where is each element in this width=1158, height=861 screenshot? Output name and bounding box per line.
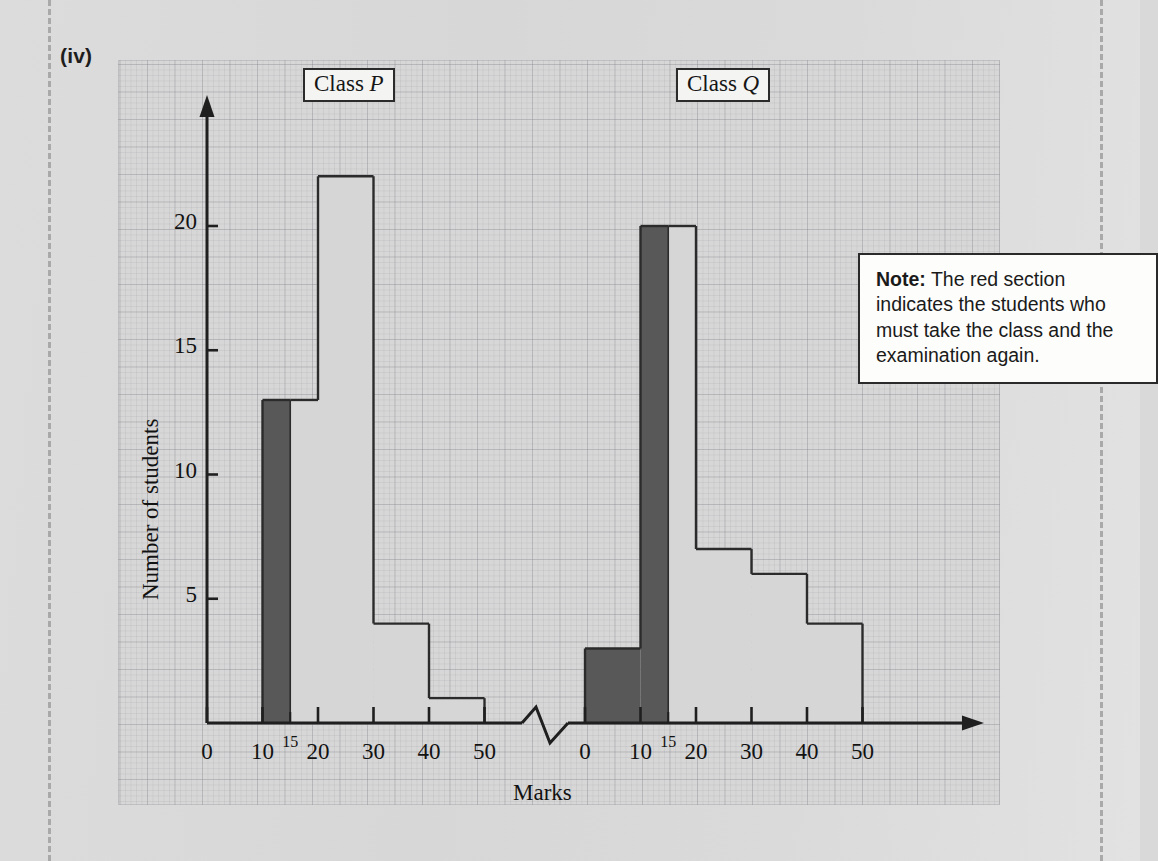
bar-class-q-30-40: [752, 574, 808, 723]
class-p-title-box: Class P: [303, 68, 395, 102]
x-tick-label-class-p-40: 40: [403, 739, 455, 765]
bar-class-q-10-15: [641, 226, 669, 723]
bar-class-q-20-30: [696, 549, 752, 723]
bar-class-p-30-40: [374, 624, 430, 723]
bar-class-p-10-15: [263, 400, 291, 723]
x-tick-label-class-q-0: 0: [559, 739, 611, 765]
page-edge-left: [48, 0, 51, 861]
x-tick-label-class-p-20: 20: [292, 739, 344, 765]
note-box: Note: The red section indicates the stud…: [858, 253, 1158, 384]
page-edge-right: [1100, 0, 1103, 861]
bar-class-p-40-50: [429, 698, 485, 723]
class-q-label-plain: Class: [687, 71, 743, 96]
x-tick-label-class-q-30: 30: [726, 739, 778, 765]
bar-class-p-15-20: [290, 400, 318, 723]
x-tick-label-class-q-40: 40: [781, 739, 833, 765]
x-axis-title: Marks: [513, 780, 572, 806]
part-label: (iv): [60, 44, 92, 68]
x-tick-label-class-q-50: 50: [837, 739, 889, 765]
class-p-label-italic: P: [370, 71, 384, 96]
histogram-plot: [118, 60, 1000, 805]
class-q-title-box: Class Q: [676, 68, 770, 102]
note-prefix: Note:: [876, 268, 926, 290]
x-axis-break-zigzag: [522, 707, 568, 743]
y-tick-label-20: 20: [145, 209, 197, 235]
class-q-label-italic: Q: [743, 71, 760, 96]
bar-class-q-0-10: [585, 648, 641, 723]
x-tick-label-class-p-0: 0: [181, 739, 233, 765]
x-tick-label-class-p-30: 30: [348, 739, 400, 765]
bar-class-p-20-30: [318, 176, 374, 723]
x-tick-label-class-q-20: 20: [670, 739, 722, 765]
bar-class-q-15-20: [668, 226, 696, 723]
y-axis-title: Number of students: [138, 419, 164, 600]
x-tick-label-class-p-50: 50: [459, 739, 511, 765]
x-axis-arrowhead: [962, 716, 984, 731]
bar-class-q-40-50: [807, 624, 863, 723]
y-axis-arrowhead: [200, 95, 215, 117]
class-p-label-plain: Class: [314, 71, 370, 96]
y-tick-label-15: 15: [145, 333, 197, 359]
graph-paper-area: Class P Class Q Note: The red section in…: [118, 60, 1000, 805]
